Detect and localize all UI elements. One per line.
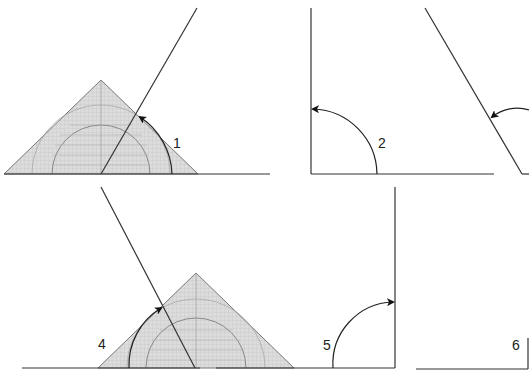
panel-label-2: 2 (378, 135, 386, 151)
panel-label-1: 1 (173, 135, 181, 151)
angle-arc-2 (313, 109, 377, 174)
ray-3 (425, 8, 522, 174)
panel-4: 4 (22, 187, 294, 368)
panel-6: 6 (416, 337, 528, 369)
panel-1: 1 (4, 8, 270, 174)
panel-2: 2 (311, 8, 494, 174)
angle-measurement-figure: 1 2 4 5 (0, 0, 529, 376)
panel-label-4: 4 (98, 336, 106, 352)
panel-3 (425, 8, 529, 174)
angle-arc-3 (492, 108, 529, 117)
panel-label-5: 5 (323, 337, 331, 353)
angle-arc-5 (333, 302, 393, 368)
panel-label-6: 6 (512, 337, 520, 353)
